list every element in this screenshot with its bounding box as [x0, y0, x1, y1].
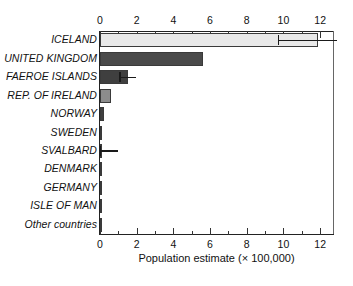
category-label-denmark: DENMARK	[0, 162, 97, 174]
x-tick-top-12	[320, 31, 321, 38]
x-tick-label-bot-8: 8	[232, 238, 262, 250]
x-tick-label-bot-6: 6	[195, 238, 225, 250]
x-tick-bottom-2	[137, 228, 138, 235]
bar-other-countries	[100, 218, 102, 232]
category-label-iceland: ICELAND	[0, 33, 97, 45]
error-bar-line-iceland	[278, 40, 337, 41]
x-tick-bottom-8	[247, 228, 248, 235]
x-tick-label-bot-10: 10	[268, 238, 298, 250]
category-label-rep-of-ireland: REP. OF IRELAND	[0, 89, 97, 101]
bar-germany	[100, 181, 102, 195]
category-label-sweden: SWEDEN	[0, 126, 97, 138]
x-tick-bottom-11	[302, 231, 303, 235]
category-label-other-countries: Other countries	[0, 218, 97, 230]
category-label-svalbard: SVALBARD	[0, 144, 97, 156]
bar-united-kingdom	[100, 52, 203, 66]
x-tick-label-bot-12: 12	[305, 238, 335, 250]
x-tick-bottom-5	[192, 231, 193, 235]
x-tick-bottom-6	[210, 228, 211, 235]
bar-norway	[100, 107, 104, 121]
error-bar-line-svalbard	[100, 150, 118, 151]
category-label-isle-of-man: ISLE OF MAN	[0, 199, 97, 211]
error-bar-line-faeroe-islands	[119, 77, 136, 78]
bar-sweden	[100, 126, 102, 140]
x-tick-bottom-10	[283, 228, 284, 235]
error-bar-cap-left-svalbard	[100, 146, 101, 156]
category-label-faeroe-islands: FAEROE ISLANDS	[0, 70, 97, 82]
x-tick-label-top-2: 2	[122, 14, 152, 26]
x-tick-label-top-6: 6	[195, 14, 225, 26]
x-tick-bottom-3	[155, 231, 156, 235]
category-label-united-kingdom: UNITED KINGDOM	[0, 52, 97, 64]
error-bar-cap-left-faeroe-islands	[119, 72, 120, 82]
x-tick-bottom-9	[265, 231, 266, 235]
x-tick-label-top-0: 0	[85, 14, 115, 26]
bar-denmark	[100, 162, 102, 176]
x-tick-bottom-4	[173, 228, 174, 235]
category-label-germany: GERMANY	[0, 181, 97, 193]
bar-rep-of-ireland	[100, 89, 111, 103]
x-axis-title: Population estimate (× 100,000)	[99, 252, 334, 264]
x-tick-label-top-12: 12	[305, 14, 335, 26]
x-tick-label-bot-4: 4	[158, 238, 188, 250]
x-tick-label-top-8: 8	[232, 14, 262, 26]
x-axis-bottom-line	[99, 234, 334, 235]
x-tick-label-bot-2: 2	[122, 238, 152, 250]
error-bar-cap-left-iceland	[278, 35, 279, 45]
x-axis-top-line	[99, 31, 334, 32]
x-tick-bottom-12	[320, 228, 321, 235]
x-tick-bottom-7	[228, 231, 229, 235]
category-label-norway: NORWAY	[0, 107, 97, 119]
bar-isle-of-man	[100, 199, 102, 213]
x-tick-label-bot-0: 0	[85, 238, 115, 250]
x-tick-label-top-10: 10	[268, 14, 298, 26]
population-estimate-bar-chart: 002244668810101212ICELANDUNITED KINGDOMF…	[0, 0, 353, 286]
x-tick-label-top-4: 4	[158, 14, 188, 26]
plot-right-border	[333, 31, 334, 234]
x-tick-bottom-1	[118, 231, 119, 235]
